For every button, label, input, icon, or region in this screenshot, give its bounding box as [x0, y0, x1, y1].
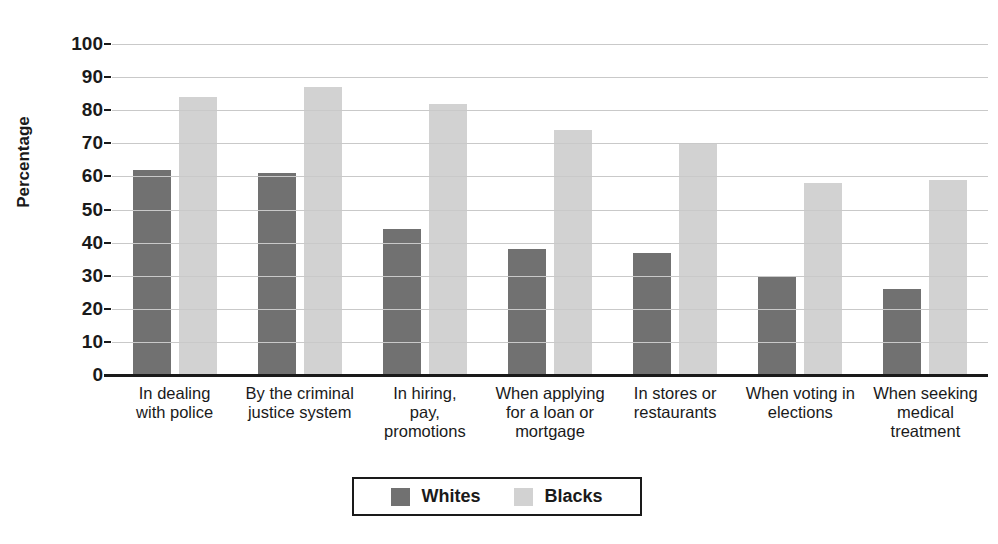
- y-tick-label: 10: [82, 331, 103, 353]
- y-tick-mark: [104, 341, 111, 343]
- legend-label-whites: Whites: [421, 486, 480, 507]
- bar-blacks: [804, 183, 842, 375]
- y-tick-label: 100: [71, 33, 103, 55]
- x-tick-label: When voting in elections: [738, 384, 863, 441]
- legend-item-whites: Whites: [391, 486, 480, 507]
- x-tick-label: When applying for a loan or mortgage: [487, 384, 612, 441]
- bar-whites: [133, 170, 171, 375]
- bar-whites: [883, 289, 921, 375]
- bar-blacks: [679, 143, 717, 375]
- x-axis-baseline: [104, 374, 988, 377]
- bar-chart: Percentage 1009080706050403020100 In dea…: [0, 0, 998, 544]
- y-tick-label: 70: [82, 132, 103, 154]
- x-tick-label: In stores or restaurants: [613, 384, 738, 441]
- y-tick-mark: [104, 275, 111, 277]
- plot-area: 1009080706050403020100: [112, 44, 988, 375]
- x-tick-label: In dealing with police: [112, 384, 237, 441]
- bar-blacks: [554, 130, 592, 375]
- bar-blacks: [179, 97, 217, 375]
- gridline: [112, 176, 988, 177]
- bar-blacks: [429, 104, 467, 375]
- legend-swatch-blacks: [514, 488, 533, 506]
- bar-whites: [258, 173, 296, 375]
- y-tick-label: 30: [82, 265, 103, 287]
- y-tick-label: 40: [82, 232, 103, 254]
- bar-whites: [633, 253, 671, 375]
- legend-swatch-whites: [391, 488, 410, 506]
- legend: Whites Blacks: [352, 477, 642, 516]
- y-tick-label: 60: [82, 165, 103, 187]
- y-tick-mark: [104, 209, 111, 211]
- y-tick-label: 0: [92, 364, 103, 386]
- gridline: [112, 342, 988, 343]
- gridline: [112, 309, 988, 310]
- y-tick-mark: [104, 76, 111, 78]
- y-tick-mark: [104, 142, 111, 144]
- y-tick-label: 90: [82, 66, 103, 88]
- y-tick-mark: [104, 308, 111, 310]
- x-tick-label: By the criminal justice system: [237, 384, 362, 441]
- y-tick-label: 80: [82, 99, 103, 121]
- y-tick-mark: [104, 175, 111, 177]
- x-axis-labels: In dealing with policeBy the criminal ju…: [112, 384, 988, 441]
- y-tick-mark: [104, 242, 111, 244]
- gridline: [112, 276, 988, 277]
- gridline: [112, 243, 988, 244]
- gridline: [112, 143, 988, 144]
- x-tick-label: In hiring, pay, promotions: [362, 384, 487, 441]
- bar-whites: [758, 276, 796, 375]
- gridline: [112, 110, 988, 111]
- legend-item-blacks: Blacks: [514, 486, 602, 507]
- bar-whites: [383, 229, 421, 375]
- bar-whites: [508, 249, 546, 375]
- y-tick-mark: [104, 374, 111, 376]
- y-tick-mark: [104, 109, 111, 111]
- x-tick-label: When seeking medical treatment: [863, 384, 988, 441]
- y-tick-mark: [104, 43, 111, 45]
- y-axis-title: Percentage: [14, 92, 34, 232]
- bar-blacks: [304, 87, 342, 375]
- legend-label-blacks: Blacks: [544, 486, 602, 507]
- y-tick-label: 20: [82, 298, 103, 320]
- gridline: [112, 77, 988, 78]
- gridline: [112, 44, 988, 45]
- y-tick-label: 50: [82, 199, 103, 221]
- gridline: [112, 210, 988, 211]
